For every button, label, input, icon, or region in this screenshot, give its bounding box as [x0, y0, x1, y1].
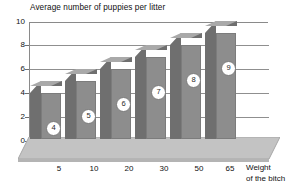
x-axis-tick-label: 50 [187, 164, 211, 173]
x-axis-label: Weight of the bitch [246, 163, 285, 184]
x-axis-tick-label: 65 [218, 164, 242, 173]
bar-front-face [216, 33, 236, 139]
x-axis-tick-label: 10 [82, 164, 106, 173]
bar-value-badge: 5 [81, 109, 96, 124]
bar-value-badge: 7 [151, 85, 166, 100]
bar-value-badge: 6 [116, 97, 131, 112]
x-axis-tick-label: 30 [152, 164, 176, 173]
bar-front-face [181, 45, 201, 139]
bar-column[interactable]: 5 [76, 81, 96, 139]
chart-container: Average number of puppies per litter 10 … [0, 0, 298, 195]
bar-value-badge: 9 [221, 61, 236, 76]
bar-column[interactable]: 6 [111, 69, 131, 139]
x-axis-tick-label: 20 [117, 164, 141, 173]
bar-value-badge: 8 [186, 73, 201, 88]
bar-column[interactable]: 7 [146, 57, 166, 139]
bar-value-badge: 4 [46, 121, 61, 136]
bar-column[interactable]: 4 [41, 93, 61, 139]
x-axis-label-line1: Weight [246, 163, 285, 174]
bar-column[interactable]: 9 [216, 33, 236, 139]
bar-column[interactable]: 8 [181, 45, 201, 139]
x-axis-tick-label: 5 [47, 164, 71, 173]
x-axis-label-line2: of the bitch [246, 174, 285, 185]
